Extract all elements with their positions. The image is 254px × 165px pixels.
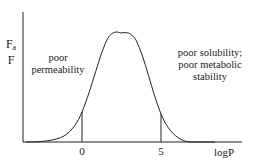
annotation-line: poor metabolic [170,59,250,71]
y-label-main: F [6,37,13,51]
x-tick-label-5: 5 [156,145,166,157]
x-tick-label-0: 0 [77,145,87,157]
annotation-line: poor [30,52,86,64]
annotation-line: poor solubility; [170,47,250,59]
poor-solubility-annotation: poor solubility; poor metabolic stabilit… [170,47,250,83]
poor-permeability-annotation: poor permeability [30,52,86,76]
y-axis-label: Fa F [3,38,19,67]
y-label-subscript: a [13,43,17,52]
annotation-line: permeability [30,64,86,76]
x-axis-label: logP [208,146,240,158]
y-label-bottom: F [3,54,19,67]
annotation-line: stability [170,71,250,83]
